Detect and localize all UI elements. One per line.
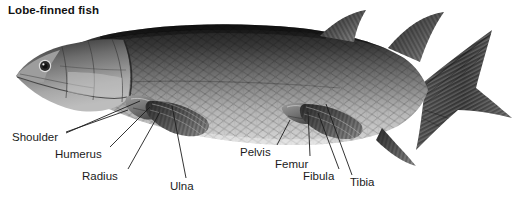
fish-illustration [0, 0, 529, 200]
label-tibia: Tibia [350, 176, 375, 188]
label-radius: Radius [82, 170, 118, 182]
label-femur: Femur [275, 158, 308, 170]
label-humerus: Humerus [55, 148, 102, 160]
label-shoulder: Shoulder [12, 131, 58, 143]
label-pelvis: Pelvis [240, 146, 271, 158]
eye [39, 60, 51, 72]
label-fibula: Fibula [303, 170, 334, 182]
lobe-finned-fish-figure: Lobe-finned fish [0, 0, 529, 200]
label-ulna: Ulna [170, 180, 194, 192]
fish-head [16, 39, 131, 112]
